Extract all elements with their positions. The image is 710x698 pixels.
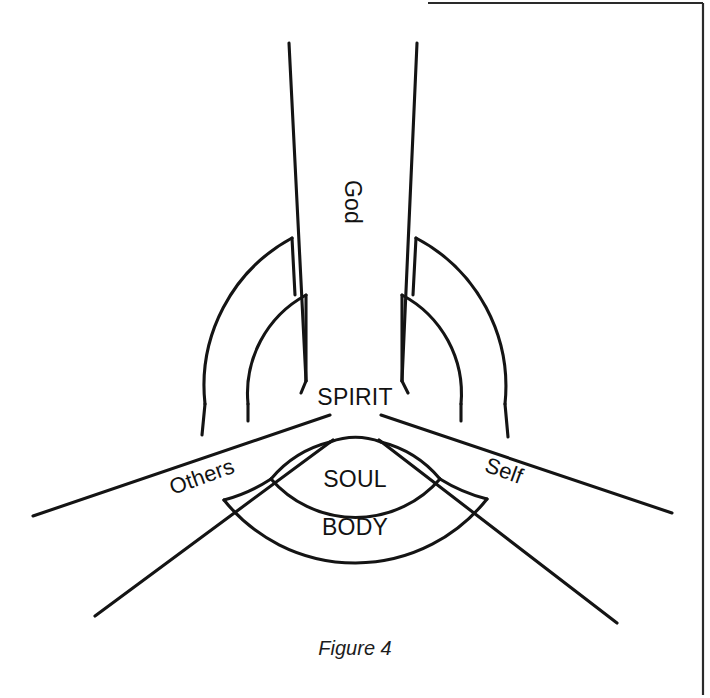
upper-left-inner-ring-arc [247, 295, 306, 404]
upper-right-inner-ring-arc [402, 295, 461, 404]
body-band-right-cap-arc [440, 479, 487, 499]
label-god: God [341, 180, 364, 224]
upper-right-inner-ring-notch [402, 381, 408, 393]
upper-left-inner-ring-notch [301, 381, 306, 393]
label-soul: SOUL [323, 468, 386, 491]
upper-right-outer-ring-cap-end [505, 404, 508, 437]
figure-caption: Figure 4 [318, 637, 391, 660]
figure-4-diagram: God SPIRIT SOUL BODY Others Self Figure … [0, 0, 710, 698]
god-channel-left-line [289, 43, 306, 381]
diagram-canvas [0, 0, 710, 698]
label-spirit: SPIRIT [317, 386, 392, 409]
soul-band-top-arc [330, 437, 381, 442]
label-body: BODY [322, 516, 388, 539]
upper-right-outer-ring-cap-top [413, 238, 416, 295]
upper-left-outer-ring-cap-top [292, 238, 295, 295]
upper-left-outer-ring-cap-end [202, 404, 205, 435]
god-channel-right-line [402, 43, 417, 381]
